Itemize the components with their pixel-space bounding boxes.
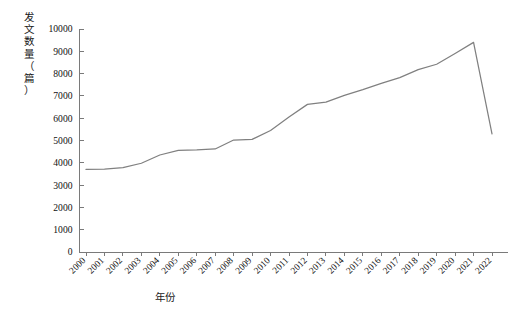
data-series-layer <box>86 42 492 169</box>
x-tick-label: 2003 <box>123 255 143 275</box>
x-tick-label: 2005 <box>159 255 179 275</box>
y-tick-label: 4000 <box>53 157 72 168</box>
x-tick-label: 2017 <box>381 255 401 275</box>
axes <box>79 29 508 257</box>
x-tick-label: 2021 <box>455 255 475 275</box>
x-tick-label: 2007 <box>196 255 216 275</box>
x-axis-tick-labels: 2000200120022003200420052006200720082009… <box>67 255 493 275</box>
x-tick-label: 2009 <box>233 255 253 275</box>
x-tick-label: 2014 <box>326 255 346 275</box>
y-tick-label: 10000 <box>49 23 73 34</box>
x-tick-label: 2022 <box>473 255 493 275</box>
x-axis-title: 年份 <box>0 289 330 304</box>
x-tick-label: 2000 <box>67 255 87 275</box>
y-axis-tick-labels: 0100020003000400050006000700080009000100… <box>49 23 73 257</box>
x-tick-label: 2008 <box>215 255 235 275</box>
x-tick-label: 2019 <box>418 255 438 275</box>
publications-per-year-line-chart: 发 文 数 量 （ 篇 ） 01000200030004000500060007… <box>0 0 522 318</box>
y-tick-label: 1000 <box>53 224 72 235</box>
x-tick-label: 2006 <box>178 255 198 275</box>
y-tick-label: 7000 <box>53 90 72 101</box>
x-tick-label: 2013 <box>307 255 327 275</box>
x-tick-label: 2004 <box>141 255 161 275</box>
y-tick-label: 3000 <box>53 180 72 191</box>
chart-plot-area: 0100020003000400050006000700080009000100… <box>0 0 522 318</box>
x-tick-label: 2018 <box>399 255 419 275</box>
x-tick-label: 2010 <box>252 255 272 275</box>
x-tick-label: 2016 <box>362 255 382 275</box>
x-tick-label: 2015 <box>344 255 364 275</box>
x-tick-label: 2001 <box>86 255 106 275</box>
series-line <box>86 42 492 169</box>
y-tick-label: 8000 <box>53 68 72 79</box>
y-tick-label: 5000 <box>53 135 72 146</box>
x-tick-label: 2002 <box>104 255 124 275</box>
x-tick-label: 2020 <box>436 255 456 275</box>
y-tick-label: 2000 <box>53 202 72 213</box>
y-tick-label: 6000 <box>53 113 72 124</box>
x-tick-label: 2011 <box>270 255 290 275</box>
y-tick-label: 0 <box>68 246 73 257</box>
x-tick-label: 2012 <box>289 255 309 275</box>
y-tick-label: 9000 <box>53 46 72 57</box>
y-axis-ticks <box>79 29 84 230</box>
